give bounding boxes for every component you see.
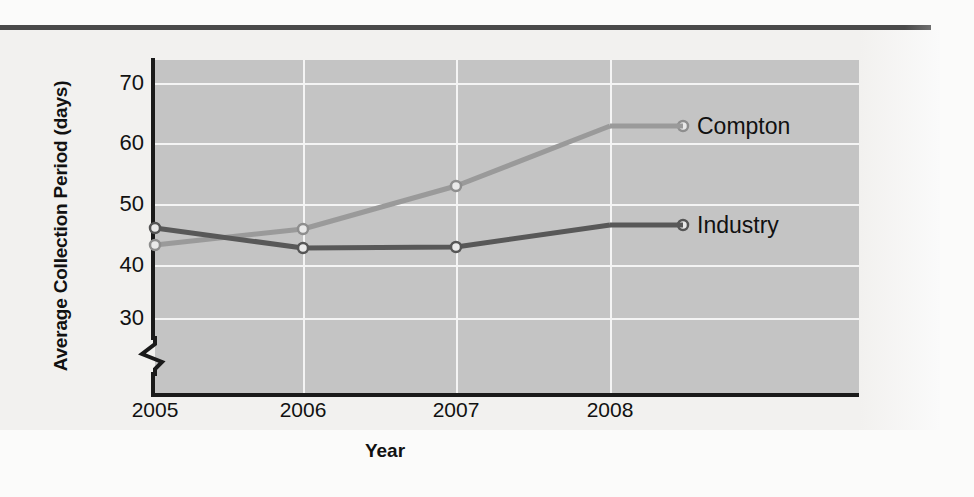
series-label-compton: Compton <box>697 113 790 140</box>
y-axis-line <box>151 58 155 340</box>
gridline-y-70 <box>155 83 859 85</box>
y-tick-labels: 70 60 50 40 30 <box>92 0 144 497</box>
y-tick-60: 60 <box>98 130 144 156</box>
x-axis-title: Year <box>155 440 615 462</box>
gridline-y-50 <box>155 204 859 206</box>
x-tick-2007: 2007 <box>401 398 511 422</box>
y-tick-30: 30 <box>98 305 144 331</box>
y-axis-title: Average Collection Period (days) <box>50 61 72 391</box>
y-tick-70: 70 <box>98 70 144 96</box>
y-tick-50: 50 <box>98 191 144 217</box>
y-tick-40: 40 <box>98 252 144 278</box>
gridline-x-2008 <box>610 60 612 395</box>
gridline-x-2006 <box>303 60 305 395</box>
gridline-y-60 <box>155 143 859 145</box>
x-tick-2006: 2006 <box>248 398 358 422</box>
gridline-y-30 <box>155 318 859 320</box>
x-tick-2008: 2008 <box>555 398 665 422</box>
x-axis-line <box>151 393 859 397</box>
gridline-x-2007 <box>456 60 458 395</box>
series-label-industry: Industry <box>697 212 779 239</box>
line-chart-figure: Average Collection Period (days) 70 60 5… <box>0 0 974 497</box>
gridline-y-40 <box>155 265 859 267</box>
x-tick-2005: 2005 <box>100 398 210 422</box>
